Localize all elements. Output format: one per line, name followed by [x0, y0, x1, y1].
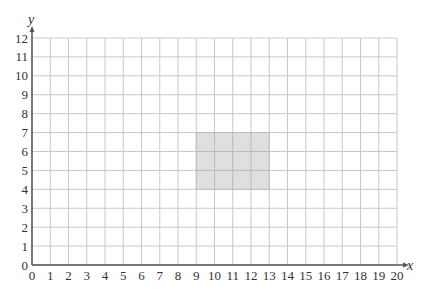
- x-tick-label: 14: [281, 268, 295, 283]
- y-tick-label: 11: [15, 49, 28, 64]
- x-tick-label: 9: [193, 268, 200, 283]
- y-tick-label: 1: [22, 239, 29, 254]
- x-tick-label: 0: [29, 268, 36, 283]
- x-tick-label: 10: [208, 268, 221, 283]
- y-tick-label: 12: [15, 31, 28, 46]
- x-tick-label: 18: [354, 268, 367, 283]
- y-axis-label: y: [26, 12, 35, 27]
- x-tick-label: 16: [318, 268, 332, 283]
- x-tick-label: 11: [226, 268, 239, 283]
- y-tick-label: 2: [22, 220, 29, 235]
- x-tick-label: 3: [84, 268, 91, 283]
- y-tick-label: 5: [22, 163, 29, 178]
- x-tick-label: 19: [372, 268, 385, 283]
- x-tick-label: 7: [157, 268, 164, 283]
- y-tick-label: 8: [22, 106, 29, 121]
- x-tick-label: 8: [175, 268, 182, 283]
- x-tick-label: 17: [336, 268, 350, 283]
- x-tick-label: 20: [391, 268, 404, 283]
- y-tick-label: 0: [22, 258, 29, 273]
- x-tick-label: 4: [102, 268, 109, 283]
- y-tick-label: 6: [22, 144, 29, 159]
- y-tick-label: 7: [22, 125, 29, 140]
- x-tick-label: 13: [263, 268, 276, 283]
- y-tick-label: 4: [22, 182, 29, 197]
- y-axis-tick-labels: 0123456789101112: [15, 31, 29, 273]
- x-axis-label: x: [406, 258, 414, 273]
- x-tick-label: 12: [245, 268, 258, 283]
- x-axis-tick-labels: 01234567891011121314151617181920: [29, 268, 404, 283]
- coordinate-grid-chart: 01234567891011121314151617181920 0123456…: [0, 0, 436, 297]
- y-tick-label: 10: [15, 68, 28, 83]
- x-tick-label: 1: [47, 268, 54, 283]
- y-tick-label: 3: [22, 201, 29, 216]
- x-tick-label: 6: [138, 268, 145, 283]
- y-tick-label: 9: [22, 87, 29, 102]
- x-tick-label: 5: [120, 268, 127, 283]
- shaded-rectangle: [196, 133, 269, 190]
- x-tick-label: 15: [299, 268, 312, 283]
- x-tick-label: 2: [65, 268, 72, 283]
